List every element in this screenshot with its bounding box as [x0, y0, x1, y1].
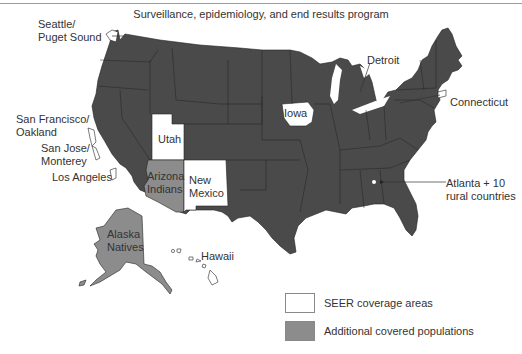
- legend-label-additional: Additional covered populations: [324, 325, 474, 337]
- label-az-line1: Arizona: [147, 170, 184, 183]
- label-sj-line1: San Jose/: [41, 142, 90, 155]
- label-ak-line1: Alaska: [107, 228, 144, 241]
- label-los-angeles: Los Angeles: [52, 171, 112, 184]
- label-ak-line2: Natives: [107, 241, 144, 254]
- label-hawaii: Hawaii: [201, 250, 234, 263]
- label-atlanta-line1: Atlanta + 10: [446, 177, 516, 190]
- legend-swatch-gray: [285, 321, 315, 341]
- label-nm-line1: New: [189, 174, 224, 187]
- connecticut-region: [438, 90, 446, 98]
- label-sj-line2: Monterey: [41, 155, 90, 168]
- label-seattle-line1: Seattle/: [38, 18, 102, 31]
- label-iowa: Iowa: [284, 107, 307, 120]
- label-arizona-indians: Arizona Indians: [147, 170, 184, 196]
- label-atlanta: Atlanta + 10 rural countries: [446, 177, 516, 203]
- label-connecticut: Connecticut: [450, 96, 508, 109]
- atlanta-marker: [372, 180, 376, 184]
- label-new-mexico: New Mexico: [189, 174, 224, 200]
- label-seattle-line2: Puget Sound: [38, 31, 102, 44]
- label-nm-line2: Mexico: [189, 187, 224, 200]
- legend-item-additional: Additional covered populations: [285, 321, 474, 341]
- label-utah: Utah: [158, 133, 181, 146]
- legend-label-seer: SEER coverage areas: [324, 297, 433, 309]
- label-seattle: Seattle/ Puget Sound: [38, 18, 102, 44]
- hawaii-big-island: [208, 270, 218, 285]
- sj-region: [92, 146, 100, 160]
- label-alaska-natives: Alaska Natives: [107, 228, 144, 254]
- label-sf-line1: San Francisco/: [16, 113, 89, 126]
- label-az-line2: Indians: [147, 183, 184, 196]
- label-atlanta-line2: rural countries: [446, 190, 516, 203]
- label-detroit: Detroit: [367, 54, 399, 67]
- legend-swatch-white: [285, 293, 315, 313]
- label-san-jose: San Jose/ Monterey: [41, 142, 90, 168]
- legend-item-seer: SEER coverage areas: [285, 293, 433, 313]
- label-san-francisco: San Francisco/ Oakland: [16, 113, 89, 139]
- label-sf-line2: Oakland: [16, 126, 89, 139]
